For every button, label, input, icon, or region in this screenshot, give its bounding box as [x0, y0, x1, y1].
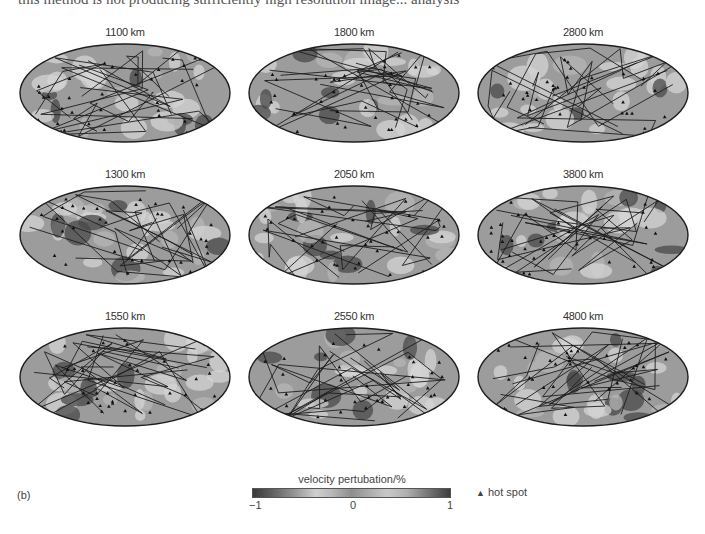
hotspot-legend: ▲ hot spot: [476, 486, 527, 498]
tomography-panel: 1300 km: [19, 168, 231, 293]
tomography-panel: 2800 km: [477, 26, 689, 151]
mantle-velocity-map: [19, 185, 231, 285]
tomography-panel: 1800 km: [248, 26, 460, 151]
panel-depth-title: 2550 km: [248, 310, 460, 322]
panel-depth-title: 1300 km: [19, 168, 231, 180]
figure-label: (b): [17, 489, 30, 501]
tomography-panel: 3800 km: [477, 168, 689, 293]
hotspot-legend-label: hot spot: [488, 486, 527, 498]
mantle-velocity-map: [19, 43, 231, 143]
panel-depth-title: 1100 km: [19, 26, 231, 38]
colorbar-title: velocity pertubation/%: [252, 473, 452, 485]
panel-depth-title: 1800 km: [248, 26, 460, 38]
panel-depth-title: 1550 km: [19, 310, 231, 322]
panel-depth-title: 3800 km: [477, 168, 689, 180]
mantle-velocity-map: [248, 327, 460, 427]
tomography-panel: 2050 km: [248, 168, 460, 293]
mantle-velocity-map: [19, 327, 231, 427]
mantle-velocity-map: [248, 43, 460, 143]
tomography-panel: 2550 km: [248, 310, 460, 435]
hotspot-triangle-icon: ▲: [476, 488, 485, 498]
colorbar-tick-zero: 0: [350, 499, 356, 511]
colorbar-tick-min: −1: [249, 499, 262, 511]
mantle-velocity-map: [477, 185, 689, 285]
tomography-panel: 1100 km: [19, 26, 231, 151]
cut-off-body-text: this method is not producing sufficientl…: [18, 0, 459, 8]
tomography-panel: 4800 km: [477, 310, 689, 435]
tomography-panel: 1550 km: [19, 310, 231, 435]
mantle-velocity-map: [477, 43, 689, 143]
mantle-velocity-map: [477, 327, 689, 427]
mantle-velocity-map: [248, 185, 460, 285]
panel-depth-title: 4800 km: [477, 310, 689, 322]
panel-depth-title: 2050 km: [248, 168, 460, 180]
velocity-colorbar: [252, 488, 451, 498]
colorbar-tick-max: 1: [447, 499, 453, 511]
panel-depth-title: 2800 km: [477, 26, 689, 38]
